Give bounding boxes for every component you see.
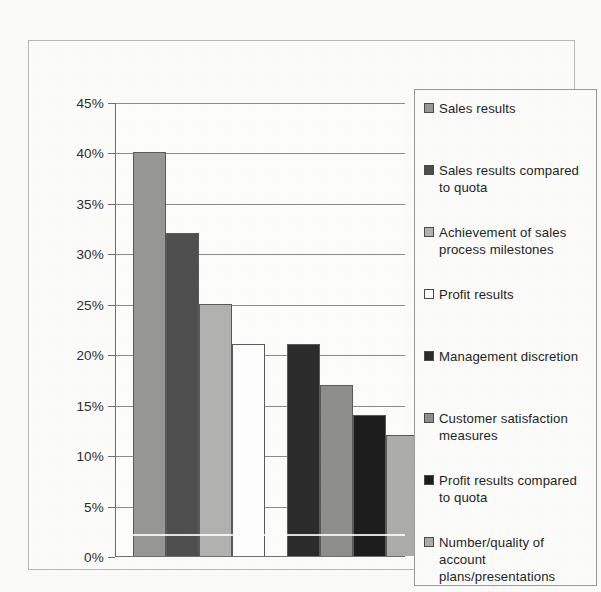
y-axis-tick — [108, 305, 115, 306]
legend-item-label: Profit results compared to quota — [439, 472, 588, 506]
y-axis-tick — [108, 103, 115, 104]
figure-frame: 45%40%35%30%25%20%15%10%5%0% Sales resul… — [28, 40, 575, 570]
legend-swatch-icon — [424, 413, 434, 423]
legend-item-label: Sales results compared to quota — [439, 162, 588, 196]
legend-swatch-icon — [424, 103, 434, 113]
legend-swatch-icon — [424, 227, 434, 237]
y-axis-tick-label: 30% — [76, 247, 104, 262]
y-axis-tick-label: 20% — [76, 348, 104, 363]
bar-6 — [320, 385, 353, 557]
y-axis-tick-label: 5% — [84, 499, 104, 514]
y-axis-tick — [108, 406, 115, 407]
y-axis-tick-label: 10% — [76, 449, 104, 464]
y-axis-tick-label: 25% — [76, 297, 104, 312]
y-axis-tick — [108, 204, 115, 205]
y-axis-tick-label: 35% — [76, 196, 104, 211]
legend-item-6[interactable]: Customer satisfaction measures — [424, 410, 588, 468]
y-axis-tick — [108, 153, 115, 154]
y-axis-tick-label: 45% — [76, 96, 104, 111]
chart-legend: Sales resultsSales results compared to q… — [414, 89, 597, 586]
y-axis-tick-label: 15% — [76, 398, 104, 413]
bar-1 — [133, 152, 166, 556]
legend-item-label: Profit results — [439, 286, 514, 303]
y-axis-tick — [108, 254, 115, 255]
bar-7 — [353, 415, 386, 556]
legend-item-label: Number/quality of account plans/presenta… — [439, 534, 588, 585]
plot-wrapper: 45%40%35%30%25%20%15%10%5%0% — [115, 103, 405, 557]
legend-swatch-icon — [424, 351, 434, 361]
legend-item-1[interactable]: Sales results — [424, 100, 588, 158]
legend-item-4[interactable]: Profit results — [424, 286, 588, 344]
legend-item-2[interactable]: Sales results compared to quota — [424, 162, 588, 220]
y-axis-tick — [108, 557, 115, 558]
legend-item-7[interactable]: Profit results compared to quota — [424, 472, 588, 530]
legend-item-label: Achievement of sales process milestones — [439, 224, 588, 258]
y-axis-tick — [108, 456, 115, 457]
bar-4 — [232, 344, 265, 556]
bar-series — [133, 103, 419, 556]
y-axis-tick-label: 0% — [84, 550, 104, 565]
y-axis-tick-label: 40% — [76, 146, 104, 161]
legend-item-label: Sales results — [439, 100, 516, 117]
legend-item-3[interactable]: Achievement of sales process milestones — [424, 224, 588, 282]
bar-2 — [166, 233, 199, 556]
chart-page: 45%40%35%30%25%20%15%10%5%0% Sales resul… — [0, 0, 601, 592]
legend-item-5[interactable]: Management discretion — [424, 348, 588, 406]
legend-swatch-icon — [424, 289, 434, 299]
legend-swatch-icon — [424, 537, 434, 547]
legend-item-label: Customer satisfaction measures — [439, 410, 588, 444]
legend-swatch-icon — [424, 165, 434, 175]
y-axis-tick — [108, 507, 115, 508]
legend-item-8[interactable]: Number/quality of account plans/presenta… — [424, 534, 588, 592]
legend-item-label: Management discretion — [439, 348, 578, 365]
plot-area — [115, 103, 405, 557]
y-axis-tick — [108, 355, 115, 356]
bar-3 — [199, 304, 232, 556]
bar-5 — [287, 344, 320, 556]
legend-swatch-icon — [424, 475, 434, 485]
